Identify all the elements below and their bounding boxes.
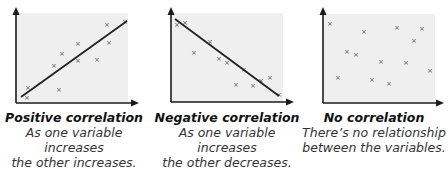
x-axis-arrow-icon (436, 100, 444, 107)
positive-correlation-plot: ××××××××××× (13, 7, 140, 107)
caption-line-1: As one variable increases (153, 125, 301, 155)
data-point-marker: × (51, 62, 57, 70)
data-point-marker: × (250, 82, 256, 90)
x-axis-arrow-icon (286, 99, 294, 106)
caption-line-1: As one variable increases (0, 125, 148, 155)
caption-title: Negative correlation (153, 110, 301, 125)
data-point-marker: × (394, 24, 400, 32)
x-axis-arrow-icon (131, 100, 139, 107)
data-point-marker: × (104, 21, 110, 29)
y-axis-arrow-icon (168, 7, 175, 15)
data-point-marker: × (361, 28, 367, 36)
caption-line-2: between the variables. (300, 140, 448, 155)
caption-line-2: the other increases. (0, 155, 148, 170)
caption-title: Positive correlation (0, 110, 148, 125)
data-point-marker: × (335, 74, 341, 82)
data-point-marker: × (378, 58, 384, 66)
data-point-marker: × (267, 74, 273, 82)
data-point-marker: × (191, 49, 197, 57)
data-point-marker: × (386, 80, 392, 88)
data-point-marker: × (344, 48, 350, 56)
caption-negative: Negative correlation As one variable inc… (153, 110, 301, 170)
data-point-marker: × (327, 20, 333, 28)
data-point-marker: × (419, 25, 425, 33)
no-correlation-plot: ××××××××××××× (320, 7, 445, 107)
data-point-marker: × (353, 51, 359, 59)
data-point-marker: × (411, 37, 417, 45)
y-axis-arrow-icon (13, 7, 20, 15)
y-axis-arrow-icon (320, 7, 327, 15)
data-point-marker: × (106, 39, 112, 47)
caption-positive: Positive correlation As one variable inc… (0, 110, 148, 170)
data-point-marker: × (59, 50, 65, 58)
caption-title: No correlation (300, 110, 448, 125)
data-point-marker: × (75, 40, 81, 48)
data-point-marker: × (216, 55, 222, 63)
data-point-marker: × (56, 86, 62, 94)
data-point-marker: × (369, 76, 375, 84)
data-point-marker: × (427, 67, 433, 75)
scatter-plots: ××××××××××× ×××××××××××× ××××××××××××× (0, 0, 444, 110)
caption-line-2: the other decreases. (153, 155, 301, 170)
data-point-marker: × (233, 81, 239, 89)
caption-line-1: There’s no relationship (300, 125, 448, 140)
negative-correlation-plot: ×××××××××××× (168, 7, 295, 106)
data-point-marker: × (94, 56, 100, 64)
data-point-marker: × (403, 59, 409, 67)
caption-none: No correlation There’s no relationship b… (300, 110, 448, 155)
